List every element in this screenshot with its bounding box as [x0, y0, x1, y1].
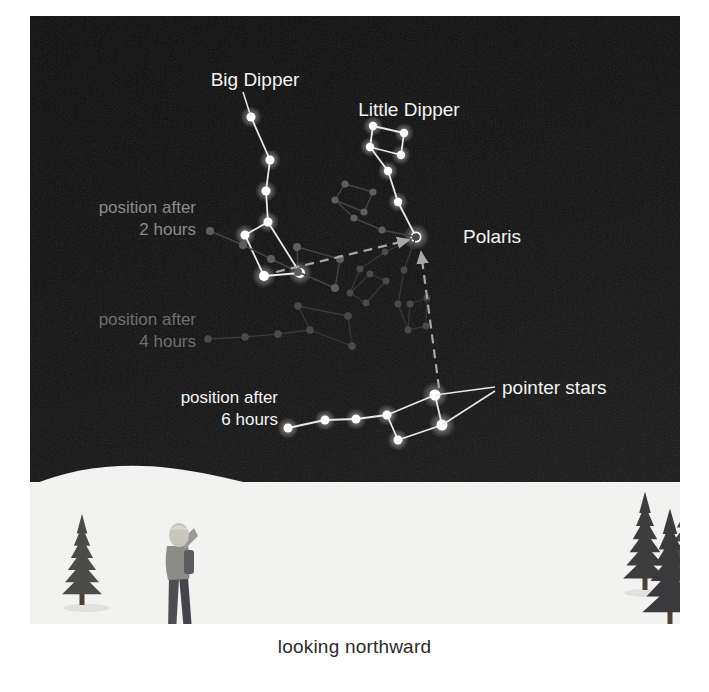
- sky-label-7: 4 hours: [139, 332, 196, 351]
- star-p4-4: [306, 326, 314, 334]
- star-l2-4: [331, 196, 338, 203]
- star-ld4: [366, 143, 374, 151]
- star-l4-4: [347, 290, 354, 297]
- star-ld2: [394, 198, 402, 206]
- tree-shadow: [63, 604, 109, 612]
- star-l6-5: [423, 323, 430, 330]
- star-l2-6: [369, 188, 376, 195]
- night-sky-scene: Big DipperLittle DipperPolarispointer st…: [30, 16, 680, 624]
- star-p2-2: [239, 241, 247, 249]
- sky-label-1: Little Dipper: [358, 99, 460, 120]
- star-p6-3: [352, 415, 361, 424]
- star-p4-2: [241, 333, 249, 341]
- star-p2-7: [331, 284, 339, 292]
- sky-label-5: 2 hours: [139, 220, 196, 239]
- sky-label-6: position after: [99, 310, 197, 329]
- star-p6-5: [394, 436, 403, 445]
- star-l6-2: [401, 267, 408, 274]
- star-l2-2: [378, 226, 385, 233]
- sky-label-8: position after: [181, 388, 279, 407]
- sky-label-9: 6 hours: [221, 410, 278, 429]
- star-p6-2: [321, 416, 330, 425]
- star-bd6-bowl-bl: [259, 271, 269, 281]
- star-p2-1: [206, 227, 214, 235]
- star-l6-3: [395, 301, 402, 308]
- star-ld6: [400, 129, 408, 137]
- star-l4-6: [383, 278, 390, 285]
- figure-caption: looking northward: [0, 636, 709, 658]
- star-l6-1: [413, 234, 420, 241]
- sky-label-0: Big Dipper: [211, 69, 300, 90]
- star-bd3: [262, 187, 271, 196]
- star-p4-3: [274, 330, 282, 338]
- star-ld3: [384, 167, 392, 175]
- star-p4-1: [204, 335, 212, 343]
- star-l2-3: [350, 214, 357, 221]
- star-p2-4: [294, 268, 302, 276]
- star-l4-3: [357, 266, 364, 273]
- star-bd2: [266, 156, 275, 165]
- star-l4-5: [363, 300, 370, 307]
- sky-label-2: Polaris: [463, 226, 521, 247]
- star-ld5: [369, 122, 377, 130]
- star-l2-7: [360, 208, 367, 215]
- star-p2-5: [293, 243, 301, 251]
- star-bd4-bowl-tr: [264, 218, 273, 227]
- star-ld7: [397, 151, 405, 159]
- star-p4-6: [344, 312, 352, 320]
- star-p4-5: [294, 302, 302, 310]
- star-bd5-bowl-tl: [241, 231, 250, 240]
- star-p2-3: [267, 255, 275, 263]
- star-l6-7: [407, 301, 414, 308]
- tree-trunk: [643, 577, 648, 590]
- star-l4-7: [367, 271, 374, 278]
- star-p6-1: [284, 424, 293, 433]
- observer-backpack: [184, 550, 194, 574]
- star-l4-2: [382, 249, 389, 256]
- star-l6-4: [405, 327, 412, 334]
- tree-trunk: [80, 593, 85, 605]
- sky-diagram-svg: Big DipperLittle DipperPolarispointer st…: [30, 16, 680, 624]
- star-p6-4: [383, 411, 392, 420]
- star-p4-7: [348, 342, 356, 350]
- tree-trunk: [668, 610, 673, 624]
- sky-label-4: position after: [99, 198, 197, 217]
- star-l2-5: [341, 180, 348, 187]
- sky-label-3: pointer stars: [502, 377, 607, 398]
- star-chart-figure: Big DipperLittle DipperPolarispointer st…: [0, 0, 709, 692]
